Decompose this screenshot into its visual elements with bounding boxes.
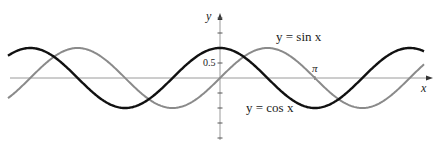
x-axis-label: x — [420, 81, 427, 95]
trig-chart: y x 0.5 π y = sin x y = cos x — [0, 0, 437, 152]
sin-label: y = sin x — [276, 29, 322, 44]
tick-label-pi: π — [312, 62, 318, 74]
tick-label-half: 0.5 — [203, 57, 216, 68]
y-axis-label: y — [205, 9, 212, 23]
y-axis-arrow-icon — [218, 13, 223, 20]
cos-label: y = cos x — [246, 100, 294, 115]
x-axis-arrow-icon — [426, 76, 433, 81]
